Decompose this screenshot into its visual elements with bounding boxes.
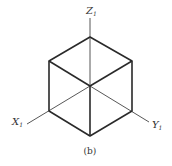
x-axis-label: X1 bbox=[11, 116, 23, 128]
y-axis bbox=[90, 86, 149, 122]
figure-caption: (b) bbox=[84, 146, 97, 156]
z-axis-label: Z1 bbox=[85, 5, 97, 17]
cube-edge-left bbox=[49, 61, 90, 86]
x-axis bbox=[27, 86, 90, 124]
cube-edge-right bbox=[90, 61, 132, 86]
y-axis-label: Y1 bbox=[152, 119, 162, 131]
isometric-cube-diagram: Z1 X1 Y1 (b) bbox=[0, 0, 172, 166]
